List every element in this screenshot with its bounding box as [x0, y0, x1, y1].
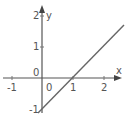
y-tick-label: 1 [33, 41, 39, 52]
origin-label: 0 [46, 82, 52, 93]
x-tick-label: 1 [70, 82, 76, 93]
y-tick-label: -1 [29, 104, 39, 115]
y-axis-arrow-icon [39, 5, 45, 13]
y-axis-label: y [46, 10, 52, 21]
coordinate-plot: x y -1 0 1 2 0 1 2 -1 [0, 0, 125, 115]
x-tick-label: 2 [101, 82, 107, 93]
x-tick-label: -1 [7, 82, 17, 93]
y-tick-label: 2 [33, 10, 39, 21]
line-series [38, 25, 124, 113]
y-tick-label: 0 [33, 67, 39, 78]
x-axis-label: x [116, 65, 122, 76]
